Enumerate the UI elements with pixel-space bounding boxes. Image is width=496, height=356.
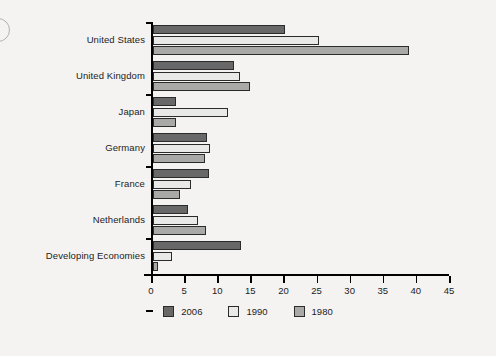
legend-label: 1990 bbox=[246, 306, 267, 317]
x-axis-tick bbox=[449, 276, 451, 283]
bar-1990 bbox=[153, 108, 228, 117]
x-axis-tick-label: 45 bbox=[444, 285, 455, 296]
x-axis-tick-label: 25 bbox=[311, 285, 322, 296]
bar-group bbox=[153, 166, 449, 202]
bar-group bbox=[153, 130, 449, 166]
x-axis-tick bbox=[250, 276, 252, 283]
bar-1980 bbox=[153, 46, 409, 55]
x-axis-tick-label: 10 bbox=[212, 285, 223, 296]
x-axis-tick bbox=[383, 276, 385, 283]
category-label: Developing Economies bbox=[46, 250, 145, 261]
x-axis-tick-label: 20 bbox=[278, 285, 289, 296]
bar-1980 bbox=[153, 82, 250, 91]
category-label: Germany bbox=[105, 142, 145, 153]
x-axis-tick bbox=[217, 276, 219, 283]
x-axis-tick bbox=[283, 276, 285, 283]
bar-group bbox=[153, 94, 449, 130]
bar-2006 bbox=[153, 133, 207, 142]
x-axis-tick bbox=[151, 276, 153, 283]
legend-swatch-icon bbox=[294, 306, 305, 317]
bar-2006 bbox=[153, 241, 241, 250]
bar-1990 bbox=[153, 180, 191, 189]
category-tick bbox=[146, 22, 153, 24]
bar-1990 bbox=[153, 252, 172, 261]
legend-swatch-icon bbox=[228, 306, 239, 317]
x-axis-tick bbox=[184, 276, 186, 283]
category-label: France bbox=[115, 178, 145, 189]
category-tick bbox=[146, 166, 153, 168]
category-tick bbox=[146, 238, 153, 240]
x-axis-tick-label: 30 bbox=[344, 285, 355, 296]
legend-label: 2006 bbox=[181, 306, 202, 317]
bar-1980 bbox=[153, 118, 176, 127]
bar-1990 bbox=[153, 216, 198, 225]
bar-1980 bbox=[153, 190, 180, 199]
x-axis-tick-label: 5 bbox=[181, 285, 186, 296]
category-label: Netherlands bbox=[93, 214, 145, 225]
legend-item-1980: 1980 bbox=[294, 306, 333, 317]
x-axis-tick bbox=[317, 276, 319, 283]
x-axis-tick-label: 40 bbox=[411, 285, 422, 296]
bar-2006 bbox=[153, 169, 209, 178]
x-axis-tick bbox=[416, 276, 418, 283]
x-axis-tick-label: 0 bbox=[148, 285, 153, 296]
bar-2006 bbox=[153, 61, 234, 70]
category-axis-labels: United StatesUnited KingdomJapanGermanyF… bbox=[0, 22, 145, 274]
bar-group bbox=[153, 202, 449, 238]
legend-item-2006: 2006 bbox=[163, 306, 202, 317]
category-label: United States bbox=[87, 34, 145, 45]
legend-swatch-icon bbox=[163, 306, 174, 317]
bar-group bbox=[153, 58, 449, 94]
bar-1980 bbox=[153, 262, 158, 271]
bar-1980 bbox=[153, 154, 205, 163]
category-label: Japan bbox=[119, 106, 145, 117]
legend-item-1990: 1990 bbox=[228, 306, 267, 317]
bar-1990 bbox=[153, 36, 319, 45]
x-axis-line bbox=[151, 274, 449, 276]
bar-group bbox=[153, 22, 449, 58]
category-tick bbox=[144, 274, 151, 276]
bar-1990 bbox=[153, 72, 240, 81]
plot-area: 051015202530354045 bbox=[151, 22, 449, 274]
category-label: United Kingdom bbox=[76, 70, 145, 81]
x-axis-tick-label: 35 bbox=[377, 285, 388, 296]
bar-chart-figure: United StatesUnited KingdomJapanGermanyF… bbox=[0, 0, 496, 356]
category-tick bbox=[146, 94, 153, 96]
bar-1980 bbox=[153, 226, 206, 235]
bar-2006 bbox=[153, 97, 176, 106]
bar-group bbox=[153, 238, 449, 274]
legend-label: 1980 bbox=[312, 306, 333, 317]
bar-1990 bbox=[153, 144, 210, 153]
bar-2006 bbox=[153, 205, 188, 214]
x-axis-tick-label: 15 bbox=[245, 285, 256, 296]
x-axis-tick bbox=[350, 276, 352, 283]
chart-legend: 200619901980 bbox=[0, 306, 496, 317]
bar-2006 bbox=[153, 25, 285, 34]
